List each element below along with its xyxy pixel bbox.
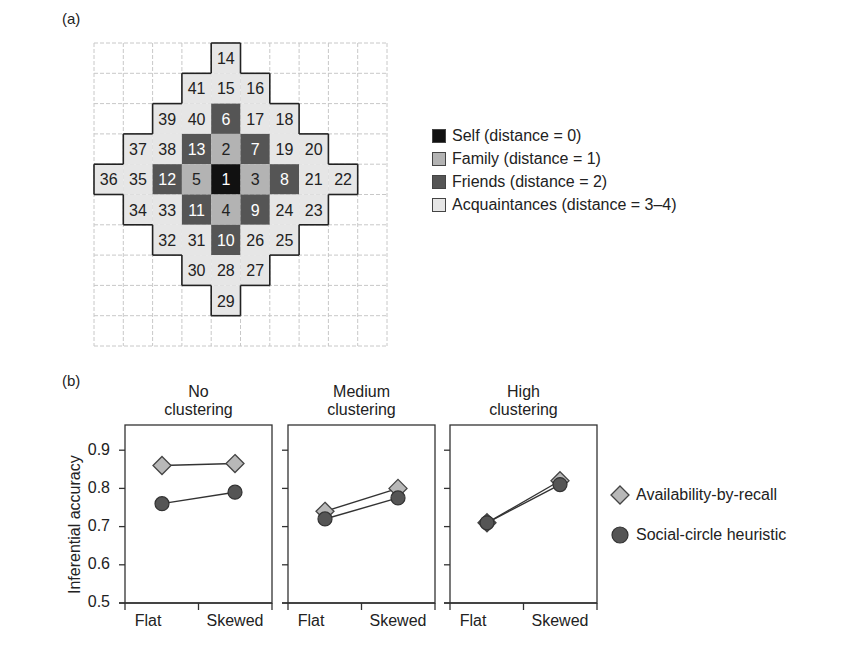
y-tick-0.8: 0.8: [80, 479, 110, 497]
grid-cell-27: 27: [241, 255, 270, 285]
grid-cell-29: 29: [211, 285, 240, 315]
svg-text:40: 40: [188, 111, 206, 128]
grid-cell-34: 34: [123, 195, 152, 225]
svg-text:4: 4: [221, 202, 230, 219]
svg-text:15: 15: [217, 80, 235, 97]
subplot-title-line1: No: [125, 383, 272, 401]
grid-cell-36: 36: [94, 164, 123, 194]
legend-item-friends: Friends (distance = 2): [432, 170, 677, 193]
grid-cell-8: 8: [270, 164, 299, 194]
svg-text:3: 3: [251, 171, 260, 188]
grid-cell-28: 28: [211, 255, 240, 285]
svg-text:14: 14: [217, 50, 235, 67]
legend-item-family: Family (distance = 1): [432, 147, 677, 170]
svg-text:38: 38: [158, 141, 176, 158]
legend-network-distance: Self (distance = 0)Family (distance = 1)…: [432, 124, 677, 216]
grid-cell-21: 21: [299, 164, 328, 194]
x-tick-skewed: Skewed: [525, 612, 595, 630]
grid-cell-26: 26: [241, 225, 270, 255]
x-tick-skewed: Skewed: [200, 612, 270, 630]
grid-cell-22: 22: [328, 164, 357, 194]
grid-cell-15: 15: [211, 73, 240, 103]
svg-text:22: 22: [334, 171, 352, 188]
subplot-title-line1: High: [450, 383, 597, 401]
legend-item-self: Self (distance = 0): [432, 124, 677, 147]
svg-text:32: 32: [158, 232, 176, 249]
y-tick-0.6: 0.6: [80, 555, 110, 573]
legend-item-social-circle: Social-circle heuristic: [610, 515, 786, 555]
svg-text:21: 21: [305, 171, 323, 188]
grid-cell-39: 39: [153, 104, 182, 134]
svg-text:24: 24: [276, 202, 294, 219]
grid-cell-13: 13: [182, 134, 211, 164]
legend-label: Availability-by-recall: [636, 486, 777, 504]
svg-text:18: 18: [276, 111, 294, 128]
svg-text:35: 35: [129, 171, 147, 188]
svg-text:12: 12: [158, 171, 176, 188]
subplot-title-high-clustering: High clustering: [450, 383, 597, 419]
grid-cell-2: 2: [211, 134, 240, 164]
color-swatch-icon: [432, 198, 446, 212]
svg-text:26: 26: [246, 232, 264, 249]
legend-heuristics: Availability-by-recall Social-circle heu…: [610, 475, 786, 555]
svg-text:17: 17: [246, 111, 264, 128]
svg-text:13: 13: [188, 141, 206, 158]
grid-cell-16: 16: [241, 73, 270, 103]
grid-cell-5: 5: [182, 164, 211, 194]
circle-marker-icon: [610, 525, 630, 545]
grid-cell-20: 20: [299, 134, 328, 164]
grid-cell-14: 14: [211, 43, 240, 73]
svg-text:25: 25: [276, 232, 294, 249]
grid-cell-9: 9: [241, 195, 270, 225]
subplot-title-line2: clustering: [450, 401, 597, 419]
legend-label: Family (distance = 1): [452, 150, 601, 168]
color-swatch-icon: [432, 129, 446, 143]
svg-text:23: 23: [305, 202, 323, 219]
svg-text:34: 34: [129, 202, 147, 219]
grid-cell-4: 4: [211, 195, 240, 225]
color-swatch-icon: [432, 175, 446, 189]
legend-label: Self (distance = 0): [452, 127, 581, 145]
svg-text:29: 29: [217, 293, 235, 310]
grid-cell-12: 12: [153, 164, 182, 194]
svg-text:2: 2: [221, 141, 230, 158]
svg-text:1: 1: [221, 171, 230, 188]
grid-cell-33: 33: [153, 195, 182, 225]
svg-text:5: 5: [192, 171, 201, 188]
y-tick-0.7: 0.7: [80, 517, 110, 535]
grid-cell-41: 41: [182, 73, 211, 103]
svg-text:6: 6: [221, 111, 230, 128]
svg-text:37: 37: [129, 141, 147, 158]
grid-cell-38: 38: [153, 134, 182, 164]
svg-text:11: 11: [188, 202, 205, 219]
grid-cell-1: 1: [211, 164, 240, 194]
grid-cell-31: 31: [182, 225, 211, 255]
svg-text:28: 28: [217, 262, 235, 279]
subplot-title-line2: clustering: [288, 401, 435, 419]
subplot-title-medium-clustering: Medium clustering: [288, 383, 435, 419]
svg-text:27: 27: [246, 262, 264, 279]
grid-cell-24: 24: [270, 195, 299, 225]
svg-text:20: 20: [305, 141, 323, 158]
grid-cell-30: 30: [182, 255, 211, 285]
grid-cell-10: 10: [211, 225, 240, 255]
diamond-marker-icon: [610, 485, 630, 505]
x-tick-flat: Flat: [113, 612, 183, 630]
x-tick-flat: Flat: [438, 612, 508, 630]
subplot-title-line2: clustering: [125, 401, 272, 419]
grid-cell-3: 3: [241, 164, 270, 194]
svg-text:9: 9: [251, 202, 260, 219]
grid-cell-23: 23: [299, 195, 328, 225]
grid-cell-17: 17: [241, 104, 270, 134]
grid-cell-37: 37: [123, 134, 152, 164]
subplot-title-line1: Medium: [288, 383, 435, 401]
svg-text:33: 33: [158, 202, 176, 219]
legend-item-availability: Availability-by-recall: [610, 475, 786, 515]
svg-text:16: 16: [246, 80, 264, 97]
svg-text:7: 7: [251, 141, 260, 158]
y-tick-0.5: 0.5: [80, 593, 110, 611]
svg-text:19: 19: [276, 141, 294, 158]
legend-label: Social-circle heuristic: [636, 526, 786, 544]
legend-label: Acquaintances (distance = 3–4): [452, 196, 677, 214]
svg-text:8: 8: [280, 171, 289, 188]
